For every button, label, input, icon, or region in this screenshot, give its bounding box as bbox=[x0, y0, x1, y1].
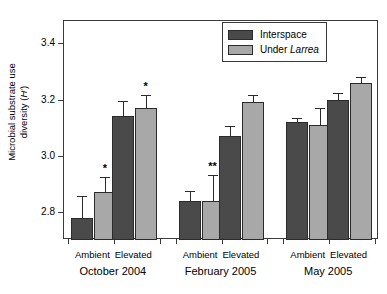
x-axis-tick bbox=[329, 238, 330, 244]
bar-interspace bbox=[112, 116, 134, 240]
chart-figure: Microbial substrate use diversity (H′) 2… bbox=[0, 0, 387, 294]
bar-interspace bbox=[71, 218, 93, 240]
plot-inner: 2.83.03.23.4**** bbox=[64, 21, 377, 238]
y-axis-tick: 3.0 bbox=[58, 156, 64, 157]
y-axis-tick: 2.8 bbox=[58, 212, 64, 213]
x-axis-tick bbox=[267, 238, 268, 244]
y-axis-title-container: Microbial substrate use diversity (H′) bbox=[0, 0, 34, 240]
y-axis-title-line2-plain: diversity ( bbox=[18, 98, 29, 139]
bar-interspace bbox=[327, 100, 349, 240]
bar-under-larrea bbox=[242, 102, 264, 240]
y-axis-tick-label: 3.4 bbox=[29, 37, 55, 48]
legend-item-under-larrea: Under Larrea bbox=[228, 42, 319, 57]
y-axis-tick: 3.2 bbox=[58, 100, 64, 101]
legend-swatch-under-larrea bbox=[228, 45, 253, 55]
error-bar-cap bbox=[100, 177, 110, 178]
y-axis-tick: 3.4 bbox=[58, 43, 64, 44]
y-axis-tick-label: 2.8 bbox=[29, 206, 55, 217]
legend-label-under-larrea-italic: Larrea bbox=[290, 44, 319, 55]
error-bar bbox=[230, 126, 231, 136]
error-bar-cap bbox=[248, 95, 258, 96]
error-bar bbox=[253, 95, 254, 102]
x-axis-condition-label: Ambient bbox=[290, 249, 325, 260]
error-bar bbox=[123, 101, 124, 116]
legend-swatch-interspace bbox=[228, 30, 253, 40]
x-axis-tick bbox=[222, 238, 223, 244]
x-axis-tick bbox=[114, 238, 115, 244]
error-bar-cap bbox=[356, 77, 366, 78]
error-bar-cap bbox=[292, 118, 302, 119]
legend-label-interspace: Interspace bbox=[260, 29, 307, 40]
error-bar-cap bbox=[185, 191, 195, 192]
error-bar-cap bbox=[333, 93, 343, 94]
plot-area: 2.83.03.23.4**** bbox=[63, 20, 378, 239]
significance-marker: * bbox=[103, 164, 107, 172]
y-axis-tick-label: 3.2 bbox=[29, 94, 55, 105]
error-bar bbox=[190, 191, 191, 201]
x-axis-tick bbox=[68, 238, 69, 244]
error-bar-cap bbox=[77, 196, 87, 197]
x-axis-condition-label: Elevated bbox=[330, 249, 367, 260]
legend-label-under-larrea: Under Larrea bbox=[260, 44, 319, 55]
error-bar bbox=[105, 177, 106, 192]
x-axis-condition-label: Ambient bbox=[75, 249, 110, 260]
y-axis-title-line2-italic: H bbox=[18, 91, 29, 98]
error-bar bbox=[338, 93, 339, 100]
error-bar-cap bbox=[315, 108, 325, 109]
significance-marker: * bbox=[144, 82, 148, 90]
x-axis-group-label: October 2004 bbox=[80, 265, 147, 277]
bar-interspace bbox=[179, 201, 201, 240]
error-bar-cap bbox=[225, 126, 235, 127]
x-axis-group-label: February 2005 bbox=[185, 265, 257, 277]
bar-interspace bbox=[219, 136, 241, 240]
y-axis-title-line2-tail: ′) bbox=[18, 86, 29, 91]
error-bar bbox=[82, 196, 83, 217]
bar-under-larrea bbox=[135, 108, 157, 240]
error-bar-cap bbox=[141, 95, 151, 96]
x-axis-condition-label: Elevated bbox=[115, 249, 152, 260]
x-axis-tick bbox=[375, 238, 376, 244]
legend-label-under-larrea-plain: Under bbox=[260, 44, 290, 55]
bar-under-larrea bbox=[350, 83, 372, 240]
error-bar-cap bbox=[118, 101, 128, 102]
error-bar bbox=[146, 95, 147, 108]
significance-marker: ** bbox=[208, 162, 217, 170]
chart-legend: Interspace Under Larrea bbox=[222, 22, 327, 62]
y-axis-tick-label: 3.0 bbox=[29, 150, 55, 161]
legend-item-interspace: Interspace bbox=[228, 27, 319, 42]
x-axis-condition-label: Ambient bbox=[183, 249, 218, 260]
x-axis-tick bbox=[176, 238, 177, 244]
error-bar-cap bbox=[208, 175, 218, 176]
error-bar bbox=[213, 175, 214, 200]
y-axis-title: Microbial substrate use diversity (H′) bbox=[6, 22, 30, 202]
x-axis-group-label: May 2005 bbox=[304, 265, 352, 277]
error-bar bbox=[320, 108, 321, 125]
x-axis-condition-label: Elevated bbox=[222, 249, 259, 260]
x-axis-tick bbox=[283, 238, 284, 244]
y-axis-title-line1: Microbial substrate use bbox=[6, 63, 17, 161]
bar-interspace bbox=[286, 122, 308, 240]
x-axis-tick bbox=[160, 238, 161, 244]
